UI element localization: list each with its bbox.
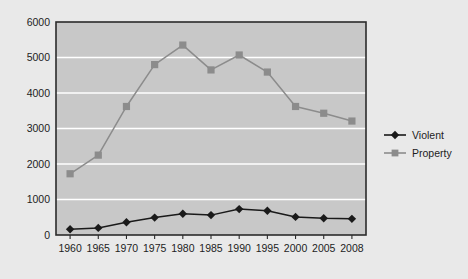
data-point (292, 103, 299, 110)
legend: ViolentProperty (384, 129, 452, 159)
data-point (320, 110, 327, 117)
legend-label: Violent (412, 129, 444, 141)
x-axis-tick-label: 1990 (228, 242, 252, 254)
x-axis-tick-label: 1960 (58, 242, 82, 254)
legend-item-violent[interactable]: Violent (384, 129, 444, 141)
data-point (66, 170, 73, 177)
data-point (151, 61, 158, 68)
y-axis-tick-label: 3000 (27, 122, 51, 134)
legend-label: Property (412, 147, 452, 159)
y-axis-tick-label: 4000 (27, 87, 51, 99)
x-axis-tick-label: 1985 (199, 242, 223, 254)
data-point (95, 152, 102, 159)
y-axis-tick-label: 5000 (27, 51, 51, 63)
line-chart: 0100020003000400050006000196019651970197… (0, 0, 468, 279)
legend-item-property[interactable]: Property (384, 147, 452, 159)
x-axis-tick-label: 2005 (312, 242, 336, 254)
x-axis-tick-label: 2008 (340, 242, 364, 254)
data-point (264, 68, 271, 75)
data-point (348, 117, 355, 124)
x-axis: 1960196519701975198019851990199520002005… (58, 242, 363, 254)
y-axis: 0100020003000400050006000 (27, 16, 51, 241)
x-axis-tick-label: 1970 (115, 242, 139, 254)
data-point (207, 66, 214, 73)
chart-figure: 0100020003000400050006000196019651970197… (0, 0, 468, 279)
legend-marker-diamond-icon (391, 131, 399, 139)
x-axis-tick-label: 1965 (87, 242, 111, 254)
y-axis-tick-label: 2000 (27, 158, 51, 170)
data-point (123, 103, 130, 110)
x-axis-tick-label: 1980 (171, 242, 195, 254)
y-axis-tick-label: 6000 (27, 16, 51, 28)
legend-marker-square-icon (392, 150, 399, 157)
y-axis-tick-label: 0 (44, 229, 50, 241)
x-axis-tick-label: 1995 (256, 242, 280, 254)
x-axis-tick-label: 2000 (284, 242, 308, 254)
y-axis-tick-label: 1000 (27, 193, 51, 205)
data-point (236, 51, 243, 58)
x-axis-tick-label: 1975 (143, 242, 167, 254)
data-point (179, 41, 186, 48)
